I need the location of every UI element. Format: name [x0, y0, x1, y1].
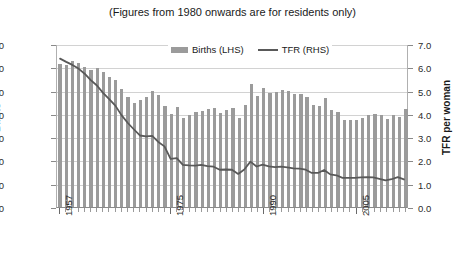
x-axis-tick-mark	[195, 208, 196, 212]
x-axis-tick-mark	[349, 208, 350, 212]
y-axis-left-tick-mark	[51, 115, 56, 116]
chart-legend: Births (LHS) TFR (RHS)	[168, 43, 332, 56]
legend-label-tfr: TFR (RHS)	[282, 44, 330, 55]
y-axis-left-tick-mark	[51, 161, 56, 162]
y-axis-left-tick-label: 70000	[0, 40, 4, 51]
y-axis-right-tick-label: 6.0	[418, 63, 458, 74]
x-axis-tick-mark	[257, 208, 258, 212]
y-axis-right-tick-mark	[408, 138, 413, 139]
y-axis-left-tick-mark	[51, 208, 56, 209]
x-axis-tick-mark	[164, 208, 165, 212]
x-axis-tick-mark	[281, 208, 282, 212]
x-axis-major-tick-mark	[356, 208, 357, 214]
x-axis-tick-mark	[127, 208, 128, 212]
x-axis-tick-mark	[121, 208, 122, 212]
x-axis-tick-mark	[374, 208, 375, 212]
y-axis-right-tick-mark	[408, 45, 413, 46]
bar-swatch-icon	[171, 47, 188, 53]
x-axis-tick-mark	[139, 208, 140, 212]
x-axis-tick-mark	[84, 208, 85, 212]
legend-item-tfr: TFR (RHS)	[258, 44, 330, 55]
line-swatch-icon	[258, 49, 278, 51]
x-axis-tick-mark	[65, 208, 66, 212]
chart-title: (Figures from 1980 onwards are for resid…	[0, 6, 465, 18]
x-axis-tick-mark	[399, 208, 400, 212]
y-axis-left-tick-mark	[51, 185, 56, 186]
x-axis-tick-mark	[294, 208, 295, 212]
y-axis-left-tick-mark	[51, 45, 56, 46]
x-axis-tick-mark	[90, 208, 91, 212]
x-axis-tick-label: 1975	[174, 195, 185, 216]
x-axis-tick-mark	[343, 208, 344, 212]
y-axis-right-tick-mark	[408, 92, 413, 93]
x-axis-major-tick-mark	[59, 208, 60, 214]
x-axis-tick-label: 1990	[267, 195, 278, 216]
y-axis-right-tick-label: 0.0	[418, 203, 458, 214]
plot-area	[56, 45, 408, 208]
x-axis-tick-mark	[207, 208, 208, 212]
x-axis-tick-mark	[325, 208, 326, 212]
y-axis-left-tick-mark	[51, 92, 56, 93]
x-axis-tick-mark	[115, 208, 116, 212]
y-axis-left-tick-label: 40000	[0, 109, 4, 120]
x-axis-tick-mark	[232, 208, 233, 212]
y-axis-left-tick-mark	[51, 138, 56, 139]
y-axis-left-tick-label: 60000	[0, 63, 4, 74]
x-axis-tick-mark	[238, 208, 239, 212]
chart-container: (Figures from 1980 onwards are for resid…	[0, 0, 465, 253]
y-axis-left-tick-label: 0	[0, 203, 4, 214]
x-axis-tick-mark	[300, 208, 301, 212]
x-axis-tick-mark	[405, 208, 406, 212]
y-axis-right-tick-mark	[408, 208, 413, 209]
y-axis-right-tick-label: 7.0	[418, 40, 458, 51]
line-series-tfr	[57, 45, 407, 207]
x-axis-tick-mark	[96, 208, 97, 212]
x-axis-tick-mark	[71, 208, 72, 212]
legend-label-births: Births (LHS)	[192, 44, 244, 55]
x-axis-tick-mark	[152, 208, 153, 212]
y-axis-right-tick-mark	[408, 68, 413, 69]
x-axis-tick-mark	[312, 208, 313, 212]
x-axis-tick-mark	[386, 208, 387, 212]
x-axis-tick-mark	[306, 208, 307, 212]
x-axis-tick-mark	[244, 208, 245, 212]
y-axis-left-tick-label: 50000	[0, 86, 4, 97]
x-axis-tick-mark	[78, 208, 79, 212]
x-axis-tick-mark	[288, 208, 289, 212]
x-axis-tick-label: 2005	[360, 195, 371, 216]
x-axis-tick-mark	[201, 208, 202, 212]
x-axis-tick-mark	[213, 208, 214, 212]
y-axis-right-tick-mark	[408, 185, 413, 186]
y-axis-left-tick-label: 10000	[0, 179, 4, 190]
y-axis-right-tick-mark	[408, 115, 413, 116]
x-axis-major-tick-mark	[170, 208, 171, 214]
y-axis-left-tick-label: 30000	[0, 133, 4, 144]
x-axis-tick-mark	[220, 208, 221, 212]
y-axis-right-tick-label: 5.0	[418, 86, 458, 97]
x-axis-tick-mark	[275, 208, 276, 212]
y-axis-left-tick-mark	[51, 68, 56, 69]
x-axis-tick-mark	[368, 208, 369, 212]
x-axis-tick-mark	[318, 208, 319, 212]
x-axis-tick-mark	[337, 208, 338, 212]
x-axis-tick-mark	[176, 208, 177, 212]
legend-item-births: Births (LHS)	[171, 44, 244, 55]
x-axis-tick-mark	[362, 208, 363, 212]
x-axis-tick-mark	[226, 208, 227, 212]
y-axis-right-tick-label: 1.0	[418, 179, 458, 190]
y-axis-right-tick-label: 4.0	[418, 109, 458, 120]
x-axis-tick-mark	[331, 208, 332, 212]
y-axis-left-tick-label: 20000	[0, 156, 4, 167]
y-axis-right-tick-mark	[408, 161, 413, 162]
x-axis-major-tick-mark	[263, 208, 264, 214]
x-axis-tick-mark	[251, 208, 252, 212]
x-axis-tick-mark	[393, 208, 394, 212]
x-axis-tick-mark	[183, 208, 184, 212]
x-axis-tick-label: 1957	[63, 195, 74, 216]
tfr-polyline	[60, 59, 404, 181]
x-axis-tick-mark	[158, 208, 159, 212]
x-axis-tick-mark	[189, 208, 190, 212]
y-axis-right-tick-label: 2.0	[418, 156, 458, 167]
x-axis-tick-mark	[133, 208, 134, 212]
x-axis-tick-mark	[380, 208, 381, 212]
